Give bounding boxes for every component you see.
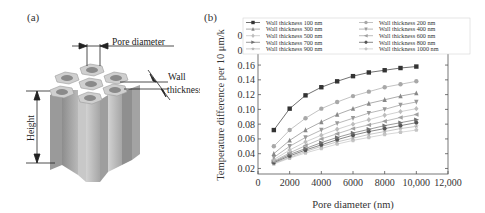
wall-thickness-label-line2: thickness: [167, 85, 200, 95]
pore-diameter-label: Pore diameter: [112, 37, 166, 47]
y-tick-label: 0.02: [238, 163, 256, 174]
svg-text:Wall thickness 900 nm: Wall thickness 900 nm: [266, 45, 323, 52]
y-tick-label: 0.16: [238, 60, 256, 71]
y-axis-label: Temperature difference per 10 μm/k: [215, 28, 226, 180]
x-tick-label: 6000: [343, 177, 363, 188]
series-line: [272, 64, 419, 132]
x-tick-label: 8000: [375, 177, 395, 188]
y-tick-label: 0.06: [238, 133, 256, 144]
honeycomb-diagram: Pore diameter Wall thickness Height: [0, 0, 200, 213]
series-line: [271, 124, 418, 166]
y-tick-label: 0.12: [238, 89, 256, 100]
y-tick-label: 0.08: [238, 119, 256, 130]
x-tick-label: 2000: [280, 177, 300, 188]
panel-b-chart: (b) 0200040006000800010,00012,0000.020.0…: [200, 0, 485, 213]
series-line: [272, 128, 419, 166]
panel-b-label: (b): [204, 11, 217, 23]
x-tick-label: 4000: [311, 177, 331, 188]
chart-legend: Wall thickness 100 nmWall thickness 200 …: [243, 18, 470, 54]
panel-a-label: (a): [27, 11, 39, 23]
series-line: [272, 106, 419, 162]
svg-text:Wall thickness 1000 nm: Wall thickness 1000 nm: [379, 45, 439, 52]
y-tick-label: 0.14: [238, 74, 256, 85]
y-tick-label: 0.04: [238, 148, 256, 159]
height-label: Height: [26, 115, 36, 141]
x-tick-label: 12,000: [434, 177, 462, 188]
chart-series: [271, 64, 419, 165]
wall-thickness-label-line1: Wall: [168, 72, 186, 82]
x-tick-label: 0: [256, 177, 261, 188]
line-chart: 0200040006000800010,00012,0000.020.040.0…: [200, 0, 485, 213]
y-tick-label: 0.10: [238, 104, 256, 115]
x-axis-label: Pore diameter (nm): [312, 199, 394, 211]
panel-a-illustration: (a): [0, 0, 200, 213]
x-tick-label: 10,000: [403, 177, 431, 188]
